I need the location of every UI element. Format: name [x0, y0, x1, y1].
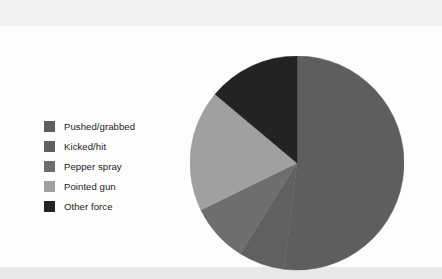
- legend-item-label: Kicked/hit: [64, 141, 106, 152]
- legend-item: Pointed gun: [44, 181, 135, 193]
- page-band-top: [0, 0, 442, 26]
- legend-item: Pushed/grabbed: [44, 120, 135, 132]
- legend-swatch-icon: [44, 181, 55, 192]
- legend-swatch-icon: [44, 141, 55, 152]
- legend-item: Kicked/hit: [44, 140, 135, 152]
- legend-item: Pepper spray: [44, 160, 135, 172]
- pie-chart: [190, 56, 404, 279]
- figure-canvas: Pushed/grabbed Kicked/hit Pepper spray P…: [0, 0, 442, 279]
- legend-swatch-icon: [44, 201, 55, 212]
- legend-swatch-icon: [44, 121, 55, 132]
- legend-item-label: Other force: [64, 201, 113, 212]
- legend-swatch-icon: [44, 161, 55, 172]
- pie-slice: [284, 56, 404, 270]
- legend-item-label: Pepper spray: [64, 161, 122, 172]
- legend-item: Other force: [44, 201, 135, 213]
- legend-item-label: Pointed gun: [64, 181, 116, 192]
- pie-slice-group: [190, 56, 404, 270]
- pie-chart-svg: [190, 56, 404, 279]
- chart-legend: Pushed/grabbed Kicked/hit Pepper spray P…: [44, 120, 135, 213]
- legend-item-label: Pushed/grabbed: [64, 121, 135, 132]
